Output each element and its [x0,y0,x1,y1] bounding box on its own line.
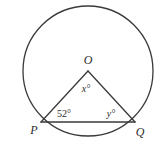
angle-label-x: x° [81,83,90,94]
vertex-label-q: Q [136,125,145,139]
geometry-canvas: O x° 52° y° P Q [0,0,163,148]
angle-label-y: y° [106,108,115,119]
vertex-label-p: P [29,123,38,137]
geometry-figure: O x° 52° y° P Q [0,0,163,148]
center-label-o: O [84,53,93,67]
angle-label-52: 52° [57,108,71,119]
